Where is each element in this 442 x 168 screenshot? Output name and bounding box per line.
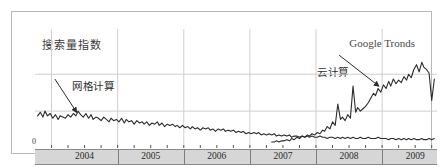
chart-svg (35, 29, 437, 148)
x-axis-tick-label: 2004 (55, 151, 115, 161)
annotation-leader-line-1 (339, 55, 379, 86)
x-axis-tick-label: 2007 (253, 151, 313, 161)
figure-container: 搜索量指数 Google Tronds 0 网格计算 云计算 200420052… (0, 0, 442, 168)
annotation-leader-line-0 (55, 79, 77, 112)
x-axis-band-separator (316, 149, 317, 165)
x-axis-band-separator (382, 149, 383, 165)
x-axis-band-separator (184, 149, 185, 165)
x-axis-tick-label: 2008 (319, 151, 379, 161)
plot-area (35, 29, 437, 148)
chart-frame: 搜索量指数 Google Tronds 0 网格计算 云计算 200420052… (11, 11, 432, 154)
x-axis-tick-label: 2006 (187, 151, 247, 161)
x-axis-band-separator (250, 149, 251, 165)
x-axis-tick-label: 2009 (385, 151, 442, 161)
series-line-0 (38, 111, 435, 140)
x-axis-band-separator (118, 149, 119, 165)
x-axis-tick-label: 2005 (121, 151, 181, 161)
